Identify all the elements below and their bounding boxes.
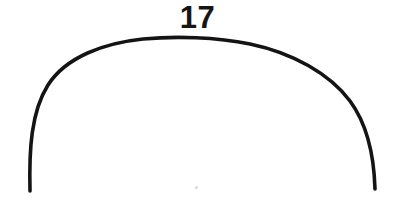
- arc-label: 17: [0, 2, 395, 34]
- figure-canvas: 17: [0, 0, 395, 221]
- paper-speck: [195, 186, 198, 189]
